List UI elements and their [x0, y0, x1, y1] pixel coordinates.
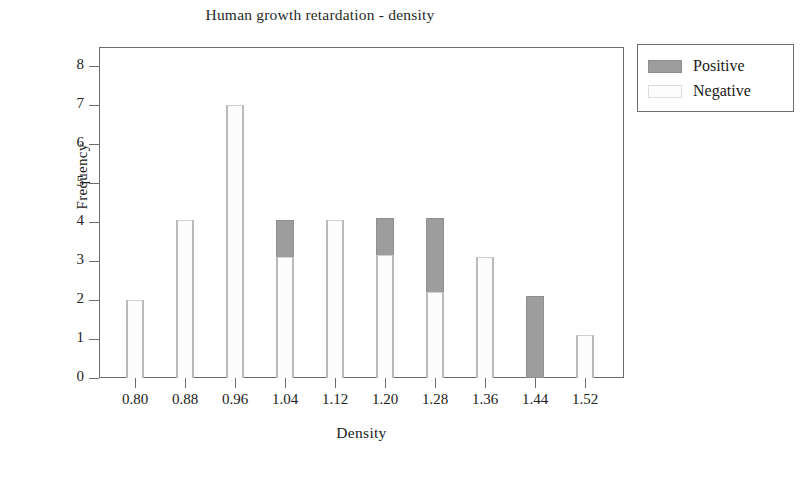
x-tick-mark	[485, 378, 486, 388]
y-tick-mark	[89, 378, 99, 379]
x-tick-mark	[235, 378, 236, 388]
y-tick-label: 6	[62, 134, 84, 151]
bar-segment-positive[interactable]	[526, 296, 544, 378]
y-tick-mark	[89, 66, 99, 67]
x-tick-label: 0.80	[109, 391, 161, 408]
plot-area	[99, 47, 624, 378]
y-tick-label: 8	[62, 56, 84, 73]
bar-group[interactable]	[276, 220, 294, 378]
y-tick-mark	[89, 300, 99, 301]
bar-segment-negative[interactable]	[326, 220, 344, 378]
x-tick-label: 1.12	[309, 391, 361, 408]
bar-group[interactable]	[226, 105, 244, 378]
x-tick-mark	[535, 378, 536, 388]
bar-group[interactable]	[126, 300, 144, 378]
y-tick-label: 7	[62, 95, 84, 112]
legend-item-positive[interactable]: Positive	[648, 54, 745, 78]
x-tick-label: 1.52	[559, 391, 611, 408]
bar-group[interactable]	[576, 335, 594, 378]
y-tick-mark	[89, 222, 99, 223]
chart-title: Human growth retardation - density	[0, 6, 640, 24]
bar-segment-negative[interactable]	[276, 257, 294, 378]
bar-segment-negative[interactable]	[576, 335, 594, 378]
y-tick-mark	[89, 261, 99, 262]
legend-label: Negative	[693, 83, 751, 99]
y-tick-label: 1	[62, 329, 84, 346]
x-tick-mark	[585, 378, 586, 388]
bar-segment-negative[interactable]	[476, 257, 494, 378]
x-tick-label: 0.96	[209, 391, 261, 408]
x-tick-label: 1.44	[509, 391, 561, 408]
bar-group[interactable]	[376, 218, 394, 378]
legend-label: Positive	[693, 58, 745, 74]
y-tick-mark	[89, 183, 99, 184]
bar-segment-negative[interactable]	[226, 105, 244, 378]
bar-group[interactable]	[476, 257, 494, 378]
x-tick-mark	[335, 378, 336, 388]
legend: PositiveNegative	[637, 44, 794, 112]
y-tick-label: 5	[62, 173, 84, 190]
x-tick-label: 1.36	[459, 391, 511, 408]
x-tick-mark	[185, 378, 186, 388]
bar-segment-negative[interactable]	[426, 292, 444, 378]
bar-group[interactable]	[176, 220, 194, 378]
legend-item-negative[interactable]: Negative	[648, 79, 751, 103]
bar-segment-negative[interactable]	[376, 255, 394, 378]
x-tick-mark	[135, 378, 136, 388]
x-tick-label: 1.28	[409, 391, 461, 408]
bar-group[interactable]	[326, 220, 344, 378]
legend-swatch-negative-icon	[648, 85, 682, 98]
x-tick-mark	[385, 378, 386, 388]
x-tick-mark	[285, 378, 286, 388]
x-tick-label: 1.20	[359, 391, 411, 408]
bar-group[interactable]	[526, 296, 544, 378]
x-tick-label: 1.04	[259, 391, 311, 408]
y-tick-mark	[89, 144, 99, 145]
y-tick-label: 3	[62, 251, 84, 268]
y-tick-mark	[89, 339, 99, 340]
bar-segment-negative[interactable]	[126, 300, 144, 378]
x-tick-label: 0.88	[159, 391, 211, 408]
y-tick-label: 2	[62, 290, 84, 307]
y-tick-label: 0	[62, 368, 84, 385]
y-tick-mark	[89, 105, 99, 106]
x-axis-title: Density	[99, 424, 624, 442]
bar-segment-negative[interactable]	[176, 220, 194, 378]
chart-canvas: Human growth retardation - density Frequ…	[0, 0, 811, 481]
x-tick-mark	[435, 378, 436, 388]
y-tick-label: 4	[62, 212, 84, 229]
bar-group[interactable]	[426, 218, 444, 378]
legend-swatch-positive-icon	[648, 60, 682, 73]
